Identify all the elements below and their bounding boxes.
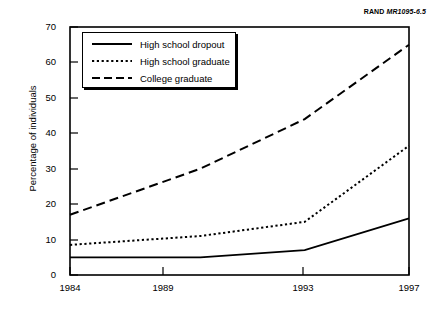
chart-figure: RAND MR1095-6.5 Percentage of individual… (0, 0, 434, 311)
legend-swatch-dashed (91, 72, 133, 84)
legend-item-high-school-dropout: High school dropout (83, 36, 235, 52)
legend-label-high-school-graduate: High school graduate (140, 56, 230, 67)
legend-swatch-dotted (91, 55, 133, 67)
x-axis-ticks (70, 267, 409, 275)
legend-label-high-school-dropout: High school dropout (140, 39, 225, 50)
series-line-high-school-graduate (70, 146, 409, 245)
series-line-high-school-dropout (70, 218, 409, 257)
legend-swatch-solid (91, 38, 133, 50)
legend-item-college-graduate: College graduate (83, 70, 235, 86)
legend-label-college-graduate: College graduate (140, 73, 212, 84)
legend-item-high-school-graduate: High school graduate (83, 53, 235, 69)
y-axis-ticks (70, 27, 78, 275)
chart-legend: High school dropout High school graduate… (82, 32, 236, 88)
